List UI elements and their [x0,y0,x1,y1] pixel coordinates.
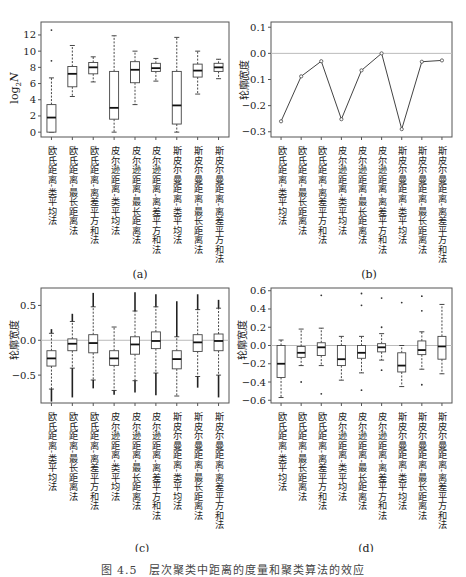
box-plot [110,36,119,132]
x-category-label: 欧氏距离-离差平方和法 [317,145,328,245]
y-tick-label: 0.1 [250,22,266,33]
x-category-label: 欧氏距离-类平均法 [277,411,288,492]
x-category-label: 皮尔逊距离-最长距离法 [357,411,368,511]
box-plot [193,51,202,94]
panel-label-a: (a) [132,268,147,280]
y-tick-label: 0.0 [250,340,266,351]
x-category-label: 皮尔逊距离-离差平方和法 [151,411,162,521]
y-tick-label: 0.2 [250,322,266,333]
y-axis-label-c: 轮廓宽度 [8,320,20,360]
panel-label-d: (d) [358,542,374,552]
x-category-label: 斯皮尔曼距离-类平均法 [172,411,183,511]
data-point [420,60,423,63]
y-tick-label: −0.3 [242,126,266,137]
box-plot [214,59,223,78]
x-labels-d: 欧氏距离-类平均法欧氏距离-最长距离法欧氏距离-离差平方和法皮尔逊距离-类平均法… [277,411,449,530]
y-tick-label: −0.1 [242,74,266,85]
y-tick-label: 10 [23,46,36,57]
y-tick-label: 0 [30,127,36,138]
x-category-label: 皮尔逊距离-最长距离法 [357,145,368,245]
y-tick-label: −0.2 [242,358,266,369]
y-tick-label: 12 [23,29,36,40]
x-category-label: 斯皮尔曼距离-离差平方和法 [214,411,225,530]
data-point [360,69,363,72]
x-category-label: 斯皮尔曼距离-最长距离法 [193,145,204,255]
chart-panel-c: 轮廓宽度 0.50.0−0.5 欧氏距离-类平均法欧氏距离-最长距离法欧氏距离-… [0,282,233,552]
box-plot [193,294,202,387]
box-plot [337,336,345,380]
y-tick-label: 0.0 [250,48,266,59]
box-plot [438,304,446,373]
y-tick-label: 0.6 [250,285,266,296]
y-tick-label: 0.5 [20,300,36,311]
plot-area-c: 0.50.0−0.5 [12,288,229,406]
x-category-label: 斯皮尔曼距离-类平均法 [397,411,408,511]
y-tick-label: 0.0 [20,335,36,346]
data-point [300,75,303,78]
box-plot [398,302,406,387]
y-tick-label: 0.4 [250,303,266,314]
x-labels-b: 欧氏距离-类平均法欧氏距离-最长距离法欧氏距离-离差平方和法皮尔逊距离-类平均法… [277,145,449,264]
box-plot [110,327,119,395]
box-plot [317,294,325,394]
x-category-label: 皮尔逊距离-类平均法 [110,411,121,502]
plot-area-d: 0.60.40.20.0−0.2−0.4−0.6 [242,285,452,406]
data-point [279,120,282,123]
panel-label-c: (c) [135,542,150,552]
box-plot [47,29,56,132]
x-labels-c: 欧氏距离-类平均法欧氏距离-最长距离法欧氏距离-离差平方和法皮尔逊距离-类平均法… [47,411,225,530]
y-tick-label: 2 [30,110,36,121]
x-category-label: 欧氏距离-离差平方和法 [89,411,100,511]
x-category-label: 欧氏距离-最长距离法 [297,145,308,236]
box-plot [358,293,366,392]
x-category-label: 皮尔逊距离-离差平方和法 [151,145,162,255]
x-category-label: 斯皮尔曼距离-最长距离法 [417,145,428,255]
x-category-label: 欧氏距离-类平均法 [277,145,288,226]
x-category-label: 皮尔逊距离-类平均法 [110,145,121,236]
x-category-label: 皮尔逊距离-离差平方和法 [377,145,388,255]
box-plot [151,294,160,395]
x-category-label: 皮尔逊距离-类平均法 [337,411,348,502]
chart-panel-b: 轮廓宽度 0.10.0−0.1−0.2−0.3 欧氏距离-类平均法欧氏距离-最长… [233,0,466,280]
box-plot [89,57,98,82]
x-category-label: 斯皮尔曼距离-离差平方和法 [214,145,225,264]
x-category-label: 皮尔逊距离-最长距离法 [131,145,142,245]
box-plot [68,45,77,96]
x-category-label: 斯皮尔曼距离-最长距离法 [193,411,204,521]
x-category-label: 欧氏距离-离差平方和法 [317,411,328,511]
x-category-label: 欧氏距离-最长距离法 [68,411,79,502]
box-plot [172,301,181,396]
box-plot [172,37,181,132]
figure-caption: 图 4.5 层次聚类中距离的度量和聚类算法的效应 [0,561,466,577]
x-category-label: 欧氏距离-最长距离法 [68,145,79,236]
box-plot [151,58,160,81]
data-point [320,60,323,63]
x-category-label: 欧氏距离-最长距离法 [297,411,308,502]
x-category-label: 欧氏距离-类平均法 [47,411,58,492]
y-tick-label: −0.6 [242,395,266,406]
x-category-label: 斯皮尔曼距离-离差平方和法 [437,411,448,530]
y-tick-label: −0.4 [242,377,266,388]
y-axis-label-d: 轮廓宽度 [236,320,248,360]
y-tick-label: 6 [30,78,36,89]
data-point [380,52,383,55]
panel-label-b: (b) [361,268,377,280]
box-plot [378,297,386,371]
data-point [440,59,443,62]
series-line [281,53,442,129]
y-axis-label-a: log2N [8,72,23,104]
chart-panel-a: log2N 024681012 欧氏距离-类平均法欧氏距离-最长距离法欧氏距离-… [0,0,233,280]
x-category-label: 斯皮尔曼距离-最长距离法 [417,411,428,521]
box-plot [297,329,305,383]
y-tick-label: 4 [30,94,36,105]
box-plot [89,293,98,388]
x-category-label: 欧氏距离-类平均法 [47,145,58,226]
data-point [340,118,343,121]
plot-frame [271,22,452,137]
box-plot [214,300,223,398]
x-category-label: 斯皮尔曼距离-类平均法 [397,145,408,245]
x-category-label: 斯皮尔曼距离-类平均法 [172,145,183,245]
box-plot [68,314,77,398]
x-category-label: 斯皮尔曼距离-离差平方和法 [437,145,448,264]
x-category-label: 欧氏距离-离差平方和法 [89,145,100,245]
